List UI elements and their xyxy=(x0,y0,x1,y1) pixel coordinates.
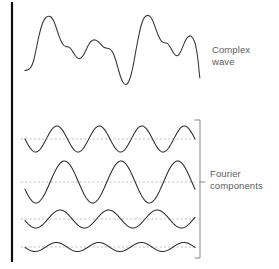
fourier-components-bracket xyxy=(195,120,205,258)
complex-wave-label: Complex wave xyxy=(212,44,250,67)
fourier-components-label-line2: components xyxy=(210,180,263,192)
complex-wave-label-line1: Complex xyxy=(212,44,250,56)
complex-wave-curve xyxy=(25,15,200,84)
fourier-figure: Complex wave Fourier components xyxy=(0,0,279,269)
fourier-components-label-line1: Fourier xyxy=(210,168,263,180)
complex-wave-label-line2: wave xyxy=(212,56,250,68)
fourier-components-label: Fourier components xyxy=(210,168,263,191)
figure-canvas xyxy=(0,0,279,269)
